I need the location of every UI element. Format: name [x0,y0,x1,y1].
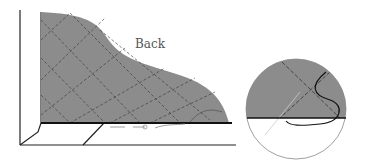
needle-thread [110,124,185,128]
back-label: Back [135,37,165,51]
magnified-detail [246,59,346,159]
fabric-back [41,12,229,123]
diagram-svg [0,0,366,162]
quilting-diagram: Back [0,0,366,162]
